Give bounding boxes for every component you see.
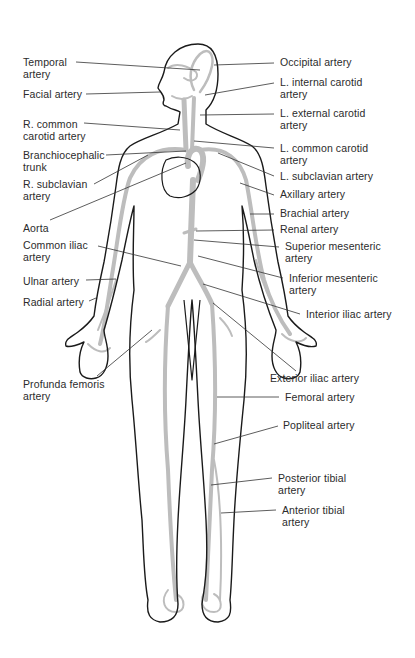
leader-line-r-common-carotid: [84, 123, 180, 130]
label-l-internal-carotid: L. internal carotidartery: [280, 77, 362, 100]
leader-line-facial: [86, 92, 160, 94]
label-line-1: Femoral artery: [285, 392, 355, 404]
label-line-2: artery: [23, 252, 88, 264]
label-common-iliac: Common iliacartery: [23, 240, 88, 263]
label-line-1: R. common: [23, 119, 86, 131]
label-line-1: Branchiocephalic: [23, 150, 105, 162]
label-line-1: R. subclavian: [23, 179, 87, 191]
label-aorta: Aorta: [23, 223, 49, 235]
label-line-2: artery: [23, 191, 87, 203]
label-interior-iliac: Interior iliac artery: [306, 309, 392, 321]
label-facial: Facial artery: [23, 89, 82, 101]
label-exterior-iliac: Exterior iliac artery: [270, 373, 359, 385]
label-line-2: artery: [280, 155, 368, 167]
label-line-2: trunk: [23, 162, 105, 174]
label-line-1: Profunda femoris: [23, 379, 105, 391]
label-line-1: Aorta: [23, 223, 49, 235]
label-line-1: Axillary artery: [280, 189, 345, 201]
leader-line-axillary: [240, 183, 274, 195]
leader-line-l-common-carotid: [194, 141, 274, 148]
label-line-2: artery: [280, 89, 362, 101]
label-line-1: Anterior tibial: [282, 505, 345, 517]
label-popliteal: Popliteal artery: [283, 420, 355, 432]
label-line-1: Interior iliac artery: [306, 309, 392, 321]
artery-diagram: TemporalarteryFacial arteryR. commoncaro…: [0, 0, 415, 658]
label-line-1: Ulnar artery: [23, 276, 79, 288]
label-l-common-carotid: L. common carotidartery: [280, 143, 368, 166]
label-line-2: artery: [289, 285, 378, 297]
leader-line-l-subclavian: [218, 153, 274, 176]
leader-line-inferior-mesenteric: [198, 256, 283, 278]
leader-line-common-iliac: [98, 246, 181, 266]
label-axillary: Axillary artery: [280, 189, 345, 201]
label-l-subclavian: L. subclavian artery: [280, 171, 373, 183]
label-line-2: artery: [282, 517, 345, 529]
label-superior-mesenteric: Superior mesentericartery: [285, 241, 381, 264]
label-line-1: Superior mesenteric: [285, 241, 381, 253]
label-line-1: Brachial artery: [280, 208, 349, 220]
label-line-1: Radial artery: [23, 297, 84, 309]
leader-line-l-internal-carotid: [205, 83, 274, 95]
label-line-1: L. common carotid: [280, 143, 368, 155]
label-line-2: artery: [280, 120, 365, 132]
label-ulnar: Ulnar artery: [23, 276, 79, 288]
label-renal: Renal artery: [280, 224, 338, 236]
label-anterior-tibial: Anterior tibialartery: [282, 505, 345, 528]
label-line-1: Renal artery: [280, 224, 338, 236]
leader-line-anterior-tibial: [221, 510, 276, 513]
label-brachiocephalic: Branchiocephalictrunk: [23, 150, 105, 173]
label-posterior-tibial: Posterior tibialartery: [278, 473, 346, 496]
label-line-2: carotid artery: [23, 131, 86, 143]
label-l-external-carotid: L. external carotidartery: [280, 108, 365, 131]
label-line-1: L. external carotid: [280, 108, 365, 120]
label-femoral: Femoral artery: [285, 392, 355, 404]
leader-line-popliteal: [214, 426, 278, 444]
leader-line-radial: [89, 298, 96, 301]
label-occipital: Occipital artery: [280, 57, 352, 69]
label-radial: Radial artery: [23, 297, 84, 309]
label-line-1: L. internal carotid: [280, 77, 362, 89]
label-line-2: artery: [278, 485, 346, 497]
label-r-subclavian: R. subclavianartery: [23, 179, 87, 202]
leader-line-posterior-tibial: [211, 478, 272, 485]
label-line-1: Inferior mesenteric: [289, 273, 378, 285]
label-line-1: Temporal: [23, 57, 67, 69]
leader-line-superior-mesenteric: [194, 240, 279, 247]
label-temporal: Temporalartery: [23, 57, 67, 80]
leader-line-renal: [196, 230, 274, 231]
heart-outline: [162, 157, 200, 197]
label-line-2: artery: [23, 391, 105, 403]
label-brachial: Brachial artery: [280, 208, 349, 220]
label-line-2: artery: [285, 253, 381, 265]
label-r-common-carotid: R. commoncarotid artery: [23, 119, 86, 142]
label-line-1: Posterior tibial: [278, 473, 346, 485]
label-line-1: Occipital artery: [280, 57, 352, 69]
label-profunda-femoris: Profunda femorisartery: [23, 379, 105, 402]
label-line-1: Exterior iliac artery: [270, 373, 359, 385]
leader-line-brachiocephalic: [106, 151, 186, 155]
label-inferior-mesenteric: Inferior mesentericartery: [289, 273, 378, 296]
leader-line-l-external-carotid: [200, 114, 274, 115]
label-line-2: artery: [23, 69, 67, 81]
label-line-1: Common iliac: [23, 240, 88, 252]
label-line-1: Facial artery: [23, 89, 82, 101]
leader-line-occipital: [214, 63, 274, 65]
label-line-1: L. subclavian artery: [280, 171, 373, 183]
label-line-1: Popliteal artery: [283, 420, 355, 432]
leader-line-exterior-iliac: [213, 303, 296, 371]
